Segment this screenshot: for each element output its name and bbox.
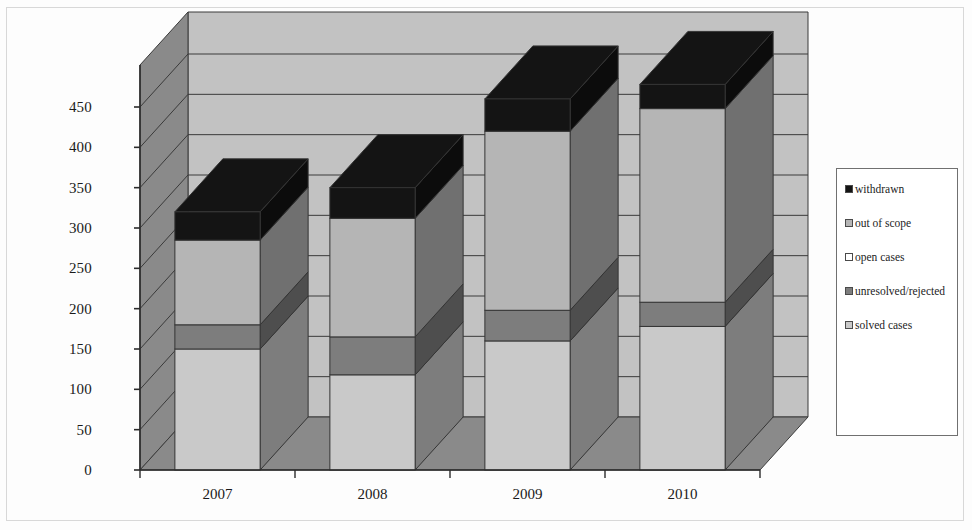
legend-swatch-icon bbox=[845, 287, 853, 295]
legend-item[interactable]: solved cases bbox=[845, 319, 951, 332]
x-axis-category-label: 2007 bbox=[203, 486, 233, 503]
legend-item[interactable]: unresolved/rejected bbox=[845, 285, 951, 298]
x-axis-category-label: 2008 bbox=[358, 486, 388, 503]
legend-item[interactable]: out of scope bbox=[845, 217, 951, 230]
chart-figure: 050100150200250300350400450 200720082009… bbox=[0, 0, 972, 530]
legend-item-label: open cases bbox=[855, 251, 905, 264]
x-axis-category-label: 2010 bbox=[668, 486, 698, 503]
legend-item-label: withdrawn bbox=[855, 183, 904, 196]
x-axis-category-labels: 2007200820092010 bbox=[0, 0, 972, 530]
legend-swatch-icon bbox=[845, 219, 853, 227]
legend-item[interactable]: open cases bbox=[845, 251, 951, 264]
chart-legend: withdrawnout of scopeopen casesunresolve… bbox=[836, 168, 958, 436]
legend-item-label: out of scope bbox=[855, 217, 911, 230]
legend-item[interactable]: withdrawn bbox=[845, 183, 951, 196]
legend-item-label: solved cases bbox=[855, 319, 912, 332]
legend-swatch-icon bbox=[845, 321, 853, 329]
x-axis-category-label: 2009 bbox=[513, 486, 543, 503]
legend-swatch-icon bbox=[845, 253, 853, 261]
legend-swatch-icon bbox=[845, 185, 853, 193]
legend-item-label: unresolved/rejected bbox=[855, 285, 945, 298]
